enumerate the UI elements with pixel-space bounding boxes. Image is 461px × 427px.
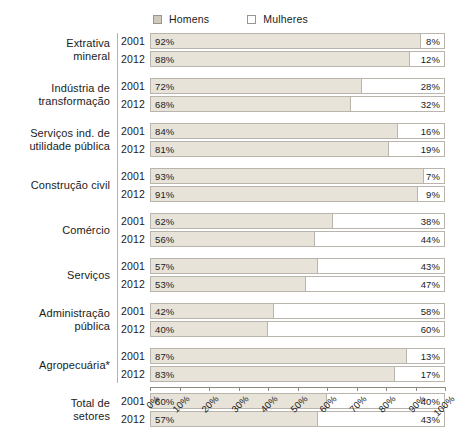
bar-group: Comércio200162%38%201256%44% [0, 213, 461, 247]
stacked-bar[interactable]: 91%9% [150, 186, 445, 202]
bar-value-mulheres: 7% [426, 170, 440, 183]
bar-value-homens: 84% [155, 125, 174, 138]
bar-row: 200142%58% [0, 303, 461, 319]
chart-legend: Homens Mulheres [0, 10, 461, 28]
bar-value-mulheres: 47% [421, 278, 440, 291]
bar-value-homens: 92% [155, 35, 174, 48]
legend-label-homens: Homens [169, 13, 209, 25]
bar-value-mulheres: 8% [426, 35, 440, 48]
stacked-bar[interactable]: 81%19% [150, 141, 445, 157]
stacked-bar[interactable]: 88%12% [150, 51, 445, 67]
axis-tick-label: 20% [199, 393, 221, 415]
bar-group: Agropecuária*200187%13%201283%17% [0, 348, 461, 382]
bar-row: 201268%32% [0, 96, 461, 112]
bar-segment-homens[interactable] [151, 349, 407, 363]
bar-value-mulheres: 9% [426, 188, 440, 201]
bar-segment-homens[interactable] [151, 79, 362, 93]
axis-tick-label: 60% [317, 393, 339, 415]
axis-tick-mark [386, 387, 387, 391]
bar-value-homens: 93% [155, 170, 174, 183]
stacked-bar[interactable]: 56%44% [150, 231, 445, 247]
bar-segment-homens[interactable] [151, 187, 418, 201]
bar-value-mulheres: 12% [421, 53, 440, 66]
bar-value-homens: 56% [155, 233, 174, 246]
axis-tick-label: 0% [144, 393, 162, 411]
axis-tick-mark [239, 387, 240, 391]
bar-value-homens: 88% [155, 53, 174, 66]
stacked-bar[interactable]: 84%16% [150, 123, 445, 139]
bar-row: 201288%12% [0, 51, 461, 67]
bar-group: Serviços ind. deutilidade pública200184%… [0, 123, 461, 157]
stacked-bar[interactable]: 72%28% [150, 78, 445, 94]
bar-segment-homens[interactable] [151, 232, 315, 246]
bar-value-homens: 72% [155, 80, 174, 93]
bar-row: 200184%16% [0, 123, 461, 139]
year-label: 2012 [121, 323, 147, 335]
axis-tick-mark [209, 387, 210, 391]
stacked-bar[interactable]: 53%47% [150, 276, 445, 292]
year-label: 2001 [121, 215, 147, 227]
axis-tick-mark [327, 387, 328, 391]
bar-value-mulheres: 19% [421, 143, 440, 156]
year-label: 2001 [121, 35, 147, 47]
year-label: 2001 [121, 350, 147, 362]
bar-segment-homens[interactable] [151, 34, 421, 48]
axis-tick-mark [298, 387, 299, 391]
legend-item-homens: Homens [153, 13, 209, 25]
bar-value-mulheres: 28% [421, 80, 440, 93]
stacked-bar[interactable]: 57%43% [150, 258, 445, 274]
bar-value-mulheres: 38% [421, 215, 440, 228]
bar-value-homens: 57% [155, 260, 174, 273]
bar-value-mulheres: 17% [421, 368, 440, 381]
year-label: 2001 [121, 170, 147, 182]
bar-value-homens: 40% [155, 323, 174, 336]
bar-value-mulheres: 32% [421, 98, 440, 111]
axis-tick-label: 90% [406, 393, 428, 415]
bar-segment-homens[interactable] [151, 142, 389, 156]
axis-tick-mark [268, 387, 269, 391]
bar-segment-homens[interactable] [151, 124, 398, 138]
stacked-bar[interactable]: 68%32% [150, 96, 445, 112]
axis-tick-mark [416, 387, 417, 391]
bar-segment-homens[interactable] [151, 259, 318, 273]
stacked-bar[interactable]: 92%8% [150, 33, 445, 49]
x-axis: 0%10%20%30%40%50%60%70%80%90%100% [0, 387, 461, 423]
bar-value-mulheres: 13% [421, 350, 440, 363]
year-label: 2012 [121, 188, 147, 200]
year-label: 2012 [121, 278, 147, 290]
stacked-bar[interactable]: 83%17% [150, 366, 445, 382]
bar-value-mulheres: 58% [421, 305, 440, 318]
bar-row: 201281%19% [0, 141, 461, 157]
axis-tick-mark [445, 387, 446, 391]
year-label: 2001 [121, 260, 147, 272]
bar-segment-homens[interactable] [151, 214, 333, 228]
stacked-bar[interactable]: 62%38% [150, 213, 445, 229]
axis-tick-label: 70% [347, 393, 369, 415]
stacked-bar[interactable]: 87%13% [150, 348, 445, 364]
bar-value-mulheres: 60% [421, 323, 440, 336]
bar-group: Serviços200157%43%201253%47% [0, 258, 461, 292]
bar-row: 201283%17% [0, 366, 461, 382]
bar-value-homens: 87% [155, 350, 174, 363]
stacked-bar[interactable]: 40%60% [150, 321, 445, 337]
year-label: 2001 [121, 125, 147, 137]
bar-segment-homens[interactable] [151, 169, 424, 183]
axis-tick-label: 80% [376, 393, 398, 415]
bar-value-mulheres: 44% [421, 233, 440, 246]
axis-tick-label: 40% [258, 393, 280, 415]
axis-tick-label: 30% [229, 393, 251, 415]
bar-segment-homens[interactable] [151, 367, 395, 381]
bar-row: 200193%7% [0, 168, 461, 184]
axis-tick-label: 50% [288, 393, 310, 415]
stacked-bar[interactable]: 42%58% [150, 303, 445, 319]
stacked-bar[interactable]: 93%7% [150, 168, 445, 184]
bar-segment-homens[interactable] [151, 52, 410, 66]
axis-tick-mark [180, 387, 181, 391]
bar-segment-homens[interactable] [151, 97, 351, 111]
filled-square-icon [153, 15, 162, 24]
bar-row: 201291%9% [0, 186, 461, 202]
bar-value-homens: 42% [155, 305, 174, 318]
plot-area: Extrativamineral200192%8%201288%12%Indús… [0, 31, 461, 387]
bar-row: 201256%44% [0, 231, 461, 247]
